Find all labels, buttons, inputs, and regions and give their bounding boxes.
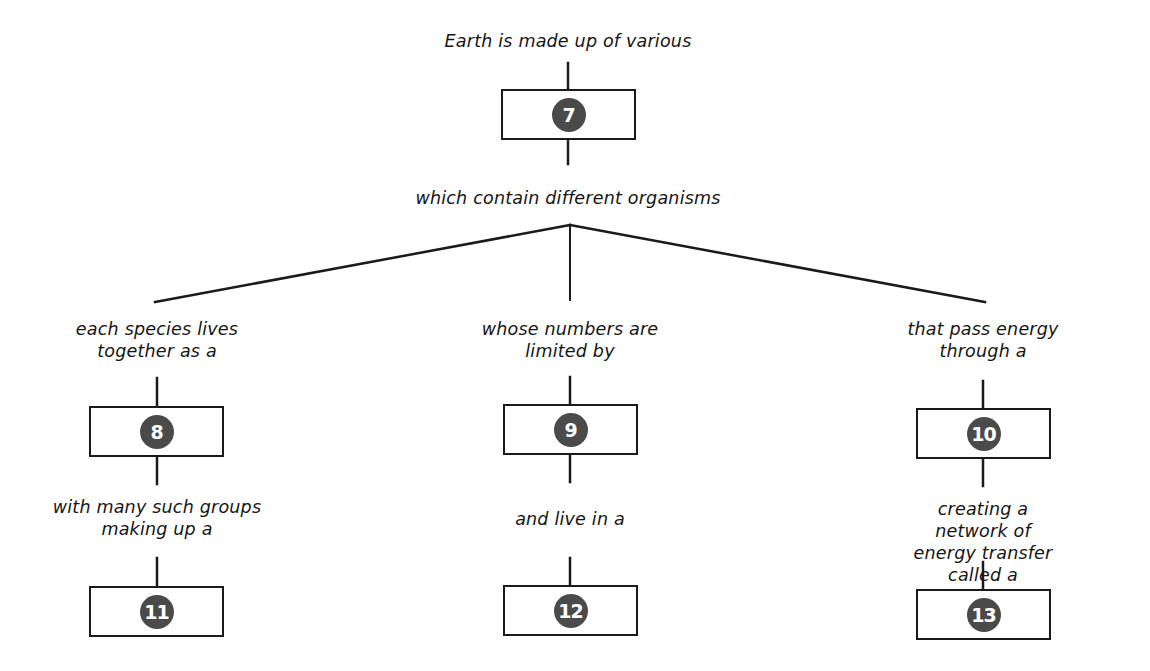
branch-right-label-middle: creating a network of energy transfer ca…	[900, 498, 1067, 586]
number-badge-13: 13	[967, 598, 1001, 632]
branch-left-label-top: each species lives together as a	[76, 318, 238, 362]
answer-box-11: 11	[89, 586, 224, 637]
branch-left-label-middle: with many such groups making up a	[53, 496, 261, 540]
answer-box-10: 10	[916, 408, 1051, 459]
number-badge-12: 12	[554, 594, 588, 628]
number-badge-8: 8	[140, 415, 174, 449]
branch-right-label-top: that pass energy through a	[907, 318, 1058, 362]
answer-box-9: 9	[503, 404, 638, 455]
branch-center-label-top: whose numbers are limited by	[482, 318, 659, 362]
concept-map: Earth is made up of various 7 which cont…	[0, 0, 1150, 671]
number-badge-11: 11	[140, 595, 174, 629]
branch-center-label-middle: and live in a	[515, 508, 625, 530]
number-badge-7: 7	[552, 98, 586, 132]
answer-box-12: 12	[503, 585, 638, 636]
answer-box-8: 8	[89, 406, 224, 457]
number-badge-9: 9	[554, 413, 588, 447]
root-label-below: which contain different organisms	[415, 187, 720, 209]
answer-box-7: 7	[501, 89, 636, 140]
connector-branch-right	[570, 225, 985, 302]
root-label-above: Earth is made up of various	[445, 30, 692, 52]
number-badge-10: 10	[967, 417, 1001, 451]
connector-branch-left	[155, 225, 570, 302]
answer-box-13: 13	[916, 589, 1051, 640]
